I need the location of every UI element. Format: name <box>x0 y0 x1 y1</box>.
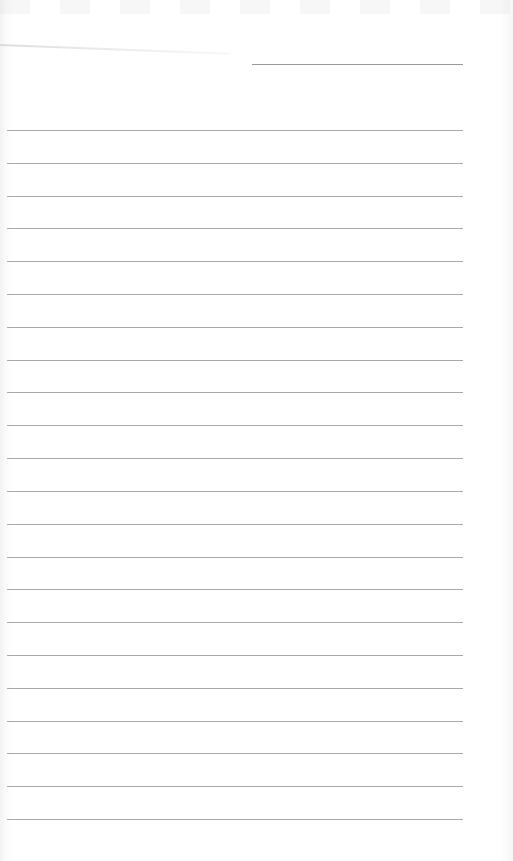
lined-paper-page <box>0 0 513 861</box>
ruled-line <box>7 294 463 295</box>
ruled-line <box>7 786 463 787</box>
ruled-line <box>7 392 463 393</box>
ruled-line <box>7 688 463 689</box>
ruled-line <box>7 360 463 361</box>
ruled-line <box>7 130 463 131</box>
ruled-lines-container <box>0 0 513 861</box>
ruled-line <box>7 458 463 459</box>
ruled-line <box>7 228 463 229</box>
ruled-line <box>7 261 463 262</box>
ruled-line <box>7 196 463 197</box>
ruled-line <box>7 721 463 722</box>
ruled-line <box>7 425 463 426</box>
ruled-line <box>7 589 463 590</box>
ruled-line <box>7 655 463 656</box>
ruled-line <box>7 491 463 492</box>
ruled-line <box>7 622 463 623</box>
ruled-line <box>7 163 463 164</box>
ruled-line <box>7 753 463 754</box>
ruled-line <box>7 327 463 328</box>
ruled-line <box>7 524 463 525</box>
ruled-line <box>7 557 463 558</box>
ruled-line <box>7 819 463 820</box>
